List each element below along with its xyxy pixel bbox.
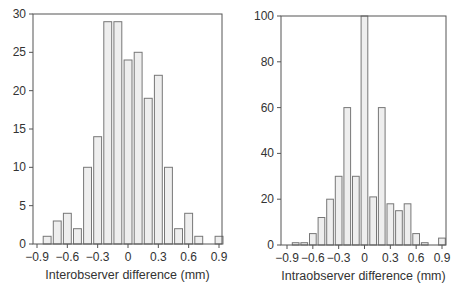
histogram-bar bbox=[378, 108, 385, 245]
x-tick-label: 0 bbox=[361, 251, 368, 265]
y-tick-label: 40 bbox=[261, 146, 275, 160]
x-tick-label: −0.9 bbox=[275, 251, 299, 265]
histogram-bar bbox=[144, 98, 152, 244]
histogram-bar bbox=[195, 236, 203, 244]
histogram-bar bbox=[327, 199, 334, 245]
histogram-bar bbox=[310, 234, 317, 245]
histogram-bar bbox=[344, 108, 351, 245]
y-tick-label: 25 bbox=[13, 45, 27, 59]
histogram-bar bbox=[74, 229, 82, 244]
histogram-bar bbox=[104, 22, 112, 244]
y-tick-label: 5 bbox=[19, 199, 26, 213]
histogram-bar bbox=[353, 176, 360, 245]
x-tick-label: −0.9 bbox=[25, 250, 49, 264]
histogram-bar bbox=[43, 236, 51, 244]
x-tick-label: −0.3 bbox=[327, 251, 351, 265]
histogram-bar bbox=[165, 167, 173, 244]
histogram-bar bbox=[361, 16, 368, 245]
interobserver-chart-svg: 051015202530−0.9−0.6−0.300.30.60.9Intero… bbox=[0, 0, 235, 286]
y-tick-label: 100 bbox=[254, 9, 274, 23]
x-tick-label: 0.3 bbox=[150, 250, 167, 264]
x-axis-label: Interobserver difference (mm) bbox=[45, 268, 209, 282]
y-tick-label: 20 bbox=[261, 192, 275, 206]
histogram-bar bbox=[134, 52, 142, 244]
histogram-bar bbox=[84, 167, 92, 244]
histogram-bar bbox=[63, 213, 71, 244]
histogram-bar bbox=[387, 204, 394, 245]
histogram-bar bbox=[185, 213, 193, 244]
histogram-bar bbox=[439, 238, 446, 245]
x-tick-label: −0.3 bbox=[86, 250, 110, 264]
intraobserver-chart-svg: 020406080100−0.9−0.6−0.300.30.60.9Intrao… bbox=[235, 0, 460, 286]
x-tick-label: −0.6 bbox=[55, 250, 79, 264]
y-tick-label: 60 bbox=[261, 101, 275, 115]
interobserver-histogram: 051015202530−0.9−0.6−0.300.30.60.9Intero… bbox=[0, 0, 235, 286]
histogram-bar bbox=[318, 218, 325, 246]
histogram-bar bbox=[94, 137, 102, 244]
x-tick-label: 0.3 bbox=[382, 251, 399, 265]
histogram-bar bbox=[413, 234, 420, 245]
y-tick-label: 20 bbox=[13, 84, 27, 98]
y-tick-label: 10 bbox=[13, 160, 27, 174]
y-tick-label: 15 bbox=[13, 122, 27, 136]
histogram-bar bbox=[114, 22, 122, 244]
histogram-bar bbox=[175, 229, 183, 244]
histogram-bar bbox=[396, 211, 403, 245]
x-axis-label: Intraobserver difference (mm) bbox=[281, 269, 445, 283]
x-tick-label: 0.9 bbox=[211, 250, 228, 264]
histogram-bar bbox=[370, 197, 377, 245]
y-tick-label: 80 bbox=[261, 55, 275, 69]
x-tick-label: 0.9 bbox=[434, 251, 451, 265]
histogram-bar bbox=[335, 176, 342, 245]
histogram-bar bbox=[53, 221, 61, 244]
histogram-bar bbox=[154, 75, 162, 244]
y-tick-label: 0 bbox=[19, 237, 26, 251]
x-tick-label: −0.6 bbox=[301, 251, 325, 265]
intraobserver-histogram: 020406080100−0.9−0.6−0.300.30.60.9Intrao… bbox=[235, 0, 460, 286]
y-tick-label: 0 bbox=[267, 238, 274, 252]
histogram-bar bbox=[124, 60, 132, 244]
histogram-bar bbox=[404, 204, 411, 245]
y-tick-label: 30 bbox=[13, 7, 27, 21]
x-tick-label: 0 bbox=[125, 250, 132, 264]
x-tick-label: 0.6 bbox=[180, 250, 197, 264]
x-tick-label: 0.6 bbox=[408, 251, 425, 265]
